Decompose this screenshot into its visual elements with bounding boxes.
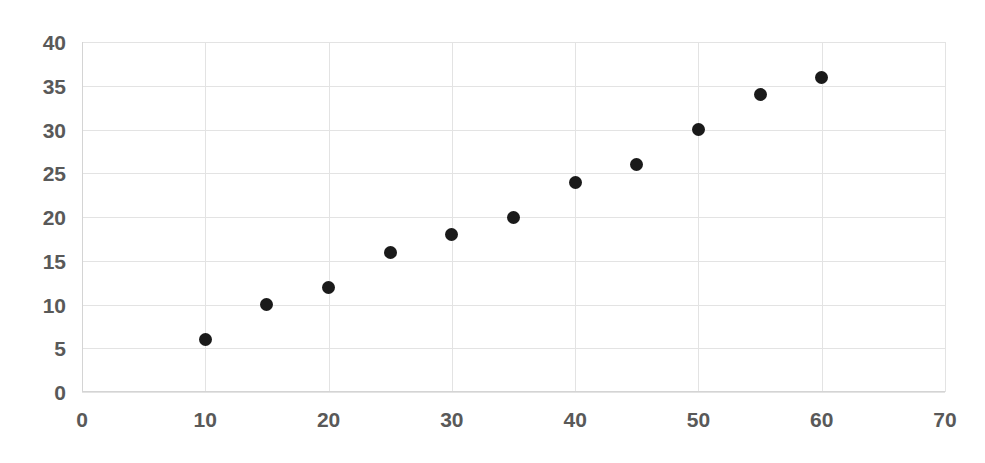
x-axis-line <box>82 391 945 392</box>
y-axis-tick-labels: 0510152025303540 <box>0 0 66 463</box>
data-point <box>507 211 520 224</box>
data-point <box>260 298 273 311</box>
gridline-vertical <box>945 42 946 392</box>
x-axis-tick-labels: 010203040506070 <box>0 409 985 449</box>
gridline-vertical <box>698 42 699 392</box>
y-axis-line <box>82 42 83 392</box>
gridline-horizontal <box>82 130 945 131</box>
gridline-horizontal <box>82 86 945 87</box>
x-axis-tick-label: 50 <box>687 409 710 430</box>
scatter-chart: 0510152025303540 010203040506070 <box>0 0 985 463</box>
y-axis-tick-label: 35 <box>43 75 66 96</box>
data-point <box>754 88 767 101</box>
gridline-vertical <box>329 42 330 392</box>
gridline-vertical <box>575 42 576 392</box>
plot-area <box>82 42 945 392</box>
y-axis-tick-label: 30 <box>43 119 66 140</box>
y-axis-tick-label: 25 <box>43 163 66 184</box>
x-axis-tick-label: 0 <box>76 409 88 430</box>
x-axis-tick-label: 40 <box>563 409 586 430</box>
gridline-horizontal <box>82 261 945 262</box>
gridline-horizontal <box>82 392 945 393</box>
gridline-vertical <box>452 42 453 392</box>
x-axis-tick-label: 60 <box>810 409 833 430</box>
y-axis-tick-label: 0 <box>54 382 66 403</box>
data-point <box>384 246 397 259</box>
y-axis-tick-label: 15 <box>43 250 66 271</box>
y-axis-tick-label: 5 <box>54 338 66 359</box>
data-point <box>569 176 582 189</box>
y-axis-tick-label: 20 <box>43 207 66 228</box>
gridline-horizontal <box>82 348 945 349</box>
x-axis-tick-label: 10 <box>194 409 217 430</box>
x-axis-tick-label: 70 <box>933 409 956 430</box>
data-point <box>815 71 828 84</box>
gridline-horizontal <box>82 42 945 43</box>
x-axis-tick-label: 20 <box>317 409 340 430</box>
gridline-horizontal <box>82 173 945 174</box>
data-point <box>692 123 705 136</box>
x-axis-tick-label: 30 <box>440 409 463 430</box>
gridline-horizontal <box>82 305 945 306</box>
y-axis-tick-label: 10 <box>43 294 66 315</box>
data-point <box>199 333 212 346</box>
data-point <box>445 228 458 241</box>
gridline-vertical <box>822 42 823 392</box>
data-point <box>630 158 643 171</box>
y-axis-tick-label: 40 <box>43 32 66 53</box>
data-point <box>322 281 335 294</box>
